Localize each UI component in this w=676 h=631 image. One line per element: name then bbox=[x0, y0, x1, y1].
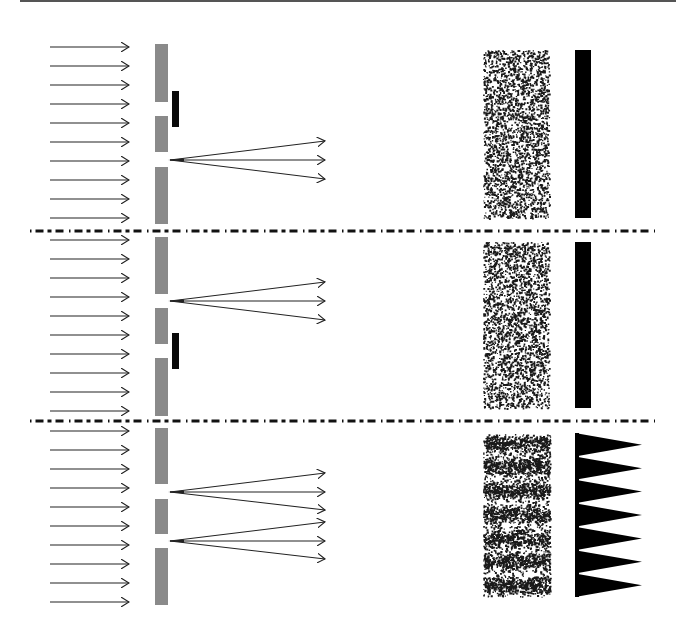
slit-wall bbox=[155, 237, 168, 416]
incident-wave-arrows bbox=[50, 431, 129, 602]
interference-fringes-screen bbox=[483, 434, 552, 598]
diffraction-fan bbox=[168, 473, 325, 510]
wall-segment bbox=[155, 308, 168, 344]
panel-bottom-both-slits-open: Both slits open bbox=[50, 428, 642, 605]
diffracted-ray-arrow-icon bbox=[170, 522, 325, 541]
detector-hit-dots bbox=[483, 434, 552, 598]
slit-wall bbox=[155, 428, 168, 605]
wall-segment bbox=[155, 358, 168, 416]
intensity-peak bbox=[575, 527, 642, 550]
uniform-hits-screen bbox=[483, 242, 551, 410]
double-slit-diagram: Upper slit blockedLower slit blockedBoth… bbox=[0, 0, 676, 631]
wall-segment bbox=[155, 428, 168, 484]
diffracted-ray-arrow-icon bbox=[170, 473, 325, 492]
intensity-peak bbox=[575, 456, 642, 479]
wall-segment bbox=[155, 499, 168, 534]
uniform-hits-screen bbox=[483, 50, 551, 220]
diffracted-ray-arrow-icon bbox=[170, 541, 325, 559]
intensity-peak bbox=[575, 574, 642, 597]
intensity-peak bbox=[575, 433, 642, 456]
diagram-canvas: Which-slit experiment: single-slit block… bbox=[0, 0, 676, 631]
wall-segment bbox=[155, 116, 168, 152]
intensity-bar bbox=[575, 242, 591, 408]
intensity-peak bbox=[575, 480, 642, 503]
diffracted-ray-arrow-icon bbox=[170, 282, 325, 301]
panels: Upper slit blockedLower slit blockedBoth… bbox=[50, 44, 642, 605]
panel-top-upper-slit-blocked: Upper slit blocked bbox=[50, 44, 591, 224]
slit-blocker bbox=[172, 91, 179, 127]
detector-hit-dots bbox=[483, 242, 551, 410]
wall-segment bbox=[155, 167, 168, 224]
intensity-peak bbox=[575, 550, 642, 573]
intensity-peak bbox=[575, 503, 642, 526]
diffracted-ray-arrow-icon bbox=[170, 141, 325, 160]
diffracted-ray-arrow-icon bbox=[170, 492, 325, 510]
incident-wave-arrows bbox=[50, 47, 129, 218]
intensity-comb bbox=[575, 433, 642, 597]
wall-segment bbox=[155, 548, 168, 605]
slit-wall bbox=[155, 44, 168, 224]
diffraction-fan bbox=[168, 522, 325, 559]
slit-blocker bbox=[172, 333, 179, 369]
panel-middle-lower-slit-blocked: Lower slit blocked bbox=[50, 237, 591, 416]
intensity-bar bbox=[575, 50, 591, 218]
incident-wave-arrows bbox=[50, 240, 129, 411]
wall-segment bbox=[155, 237, 168, 294]
detector-hit-dots bbox=[483, 50, 551, 220]
diffraction-fan bbox=[168, 141, 325, 179]
wall-segment bbox=[155, 44, 168, 102]
diffraction-fan bbox=[168, 282, 325, 320]
diffracted-ray-arrow-icon bbox=[170, 301, 325, 320]
diffracted-ray-arrow-icon bbox=[170, 160, 325, 179]
